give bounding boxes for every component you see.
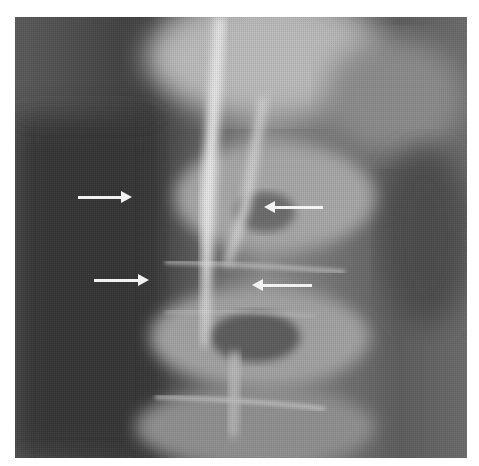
arrow-shaft xyxy=(262,284,312,287)
arrow-shaft xyxy=(274,206,323,209)
arrow-right-icon xyxy=(138,274,149,286)
arrow-left-icon xyxy=(252,279,263,291)
xray-image xyxy=(15,17,467,458)
arrow-left-icon xyxy=(264,201,275,213)
xray-rendering xyxy=(15,17,467,458)
arrow-shaft xyxy=(94,279,139,282)
arrow-right-icon xyxy=(121,191,132,203)
arrow-shaft xyxy=(78,196,122,199)
